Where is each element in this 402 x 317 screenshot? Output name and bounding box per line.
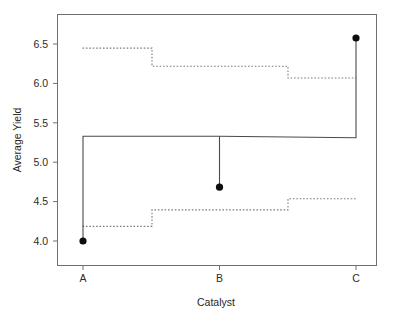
data-point-c	[352, 34, 359, 41]
y-axis-tick-labels: 6.5 6.0 5.5 5.0 4.5 4.0	[33, 38, 48, 247]
x-tick-label-a: A	[79, 272, 86, 284]
x-axis-title: Catalyst	[197, 296, 235, 308]
x-tick-label-b: B	[216, 272, 223, 284]
x-axis-tick-labels: A B C	[79, 272, 360, 284]
x-tick-label-c: C	[352, 272, 360, 284]
data-point-b	[216, 184, 223, 191]
y-tick-label-4.0: 4.0	[33, 235, 48, 247]
upper-bound-step-line	[83, 48, 357, 78]
chart-container: 6.5 6.0 5.5 5.0 4.5 4.0 A B C Catalyst A…	[0, 0, 402, 317]
y-tick-label-5.0: 5.0	[33, 156, 48, 168]
y-tick-label-5.5: 5.5	[33, 117, 48, 129]
y-axis-title: Average Yield	[11, 108, 23, 173]
y-axis-ticks	[53, 44, 58, 241]
lower-bound-step-line	[83, 199, 357, 227]
y-tick-label-6.5: 6.5	[33, 38, 48, 50]
plot-frame	[58, 15, 377, 266]
y-tick-label-6.0: 6.0	[33, 77, 48, 89]
y-tick-label-4.5: 4.5	[33, 195, 48, 207]
plot-svg: 6.5 6.0 5.5 5.0 4.5 4.0 A B C Catalyst A…	[0, 0, 402, 317]
data-point-a	[79, 237, 86, 244]
x-axis-ticks	[83, 266, 356, 271]
